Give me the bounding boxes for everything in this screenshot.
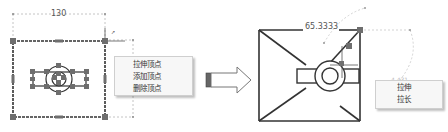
context-menu-stretch: 拉伸 拉长 (375, 80, 443, 109)
right-arrow-icon (205, 66, 253, 94)
dimension-label: 130 (51, 9, 66, 18)
inner-symbol (33, 66, 86, 92)
context-menu-vertex: 拉伸顶点 添加顶点 删除顶点 (114, 56, 193, 96)
left-figure: ↗ 130 拉伸 (0, 0, 200, 132)
menu-item-lengthen[interactable]: 拉长 (376, 94, 442, 106)
menu-item-stretch[interactable]: 拉伸 (376, 82, 442, 94)
right-figure: 4.431 65.3333 拉伸 拉长 (250, 0, 448, 132)
menu-item-delete-vertex[interactable]: 删除顶点 (115, 83, 192, 95)
svg-text:↗: ↗ (111, 29, 115, 35)
menu-item-stretch-vertex[interactable]: 拉伸顶点 (115, 59, 192, 71)
dimension-label: 65.3333 (305, 22, 338, 31)
right-drawing: 4.431 (250, 0, 448, 132)
menu-item-add-vertex[interactable]: 添加顶点 (115, 71, 192, 83)
